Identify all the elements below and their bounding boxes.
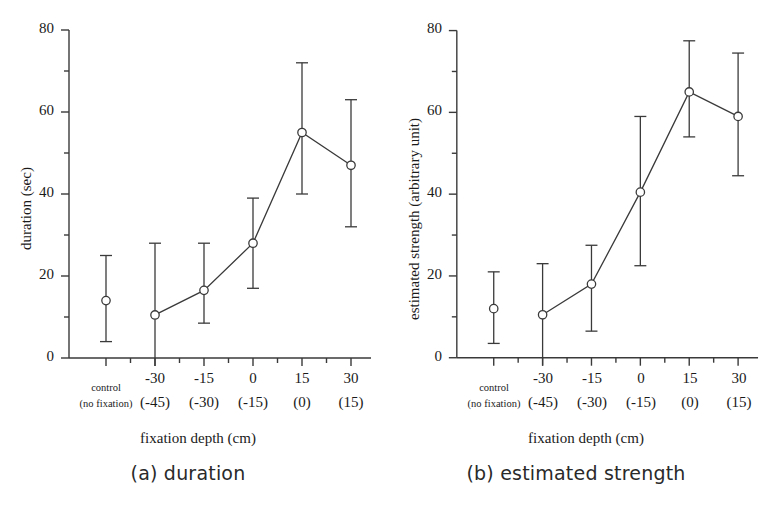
data-point-a-30: [347, 161, 355, 169]
figure-root: 80 60 40 20 0 duration (sec) control (no…: [0, 0, 777, 507]
data-point-b-0: [636, 188, 644, 196]
x-axis-title-b: fixation depth (cm): [416, 430, 756, 447]
xtick-label-a-m15: -15: [184, 370, 224, 387]
xtick-sublabel-a-m15: (-15): [228, 394, 278, 411]
xtick-sublabel-a-0: (0): [277, 394, 327, 411]
xtick-label-b-m15: -15: [572, 370, 612, 387]
xtick-label-b-30: 30: [719, 370, 759, 387]
data-point-a-m15: [200, 286, 208, 294]
data-point-b-m15: [587, 280, 595, 288]
xtick-sublabel-b-0: (0): [665, 394, 715, 411]
data-point-a-control: [102, 296, 110, 304]
panel-a-duration: 80 60 40 20 0 duration (sec) control (no…: [0, 0, 388, 507]
errorbar-a-m30: [149, 243, 161, 366]
data-markers-b: [490, 88, 743, 319]
errorbar-a-m15: [198, 243, 210, 323]
xtick-sublabel-b-m45: (-45): [518, 394, 568, 411]
panel-b-estimated-strength: 80 60 40 20 0 estimated strength (arbitr…: [388, 0, 776, 507]
ytick-label-b-60: 60: [408, 102, 442, 119]
data-point-b-30: [734, 112, 742, 120]
xtick-label-a-control-line1: control: [66, 382, 146, 393]
xtick-sublabel-a-m30: (-30): [179, 394, 229, 411]
xtick-sublabel-a-15: (15): [326, 394, 376, 411]
xtick-label-a-15: 15: [282, 370, 322, 387]
data-point-b-control: [490, 304, 498, 312]
xtick-label-a-m30: -30: [135, 370, 175, 387]
ytick-label-a-80: 80: [20, 20, 54, 37]
xtick-label-b-control-line1: control: [454, 382, 534, 393]
ytick-label-b-0: 0: [408, 348, 442, 365]
xtick-label-b-m30: -30: [523, 370, 563, 387]
subcaption-b: (b) estimated strength: [396, 462, 756, 484]
x-axis-title-a: fixation depth (cm): [28, 430, 368, 447]
ytick-label-a-60: 60: [20, 102, 54, 119]
data-point-a-m30: [151, 311, 159, 319]
data-point-b-m30: [538, 311, 546, 319]
ytick-label-a-0: 0: [20, 348, 54, 365]
xtick-label-b-15: 15: [670, 370, 710, 387]
xtick-label-b-0: 0: [621, 370, 661, 387]
xtick-sublabel-a-m45: (-45): [130, 394, 180, 411]
y-axis-title-b: estimated strength (arbitrary unit): [406, 118, 423, 320]
xtick-label-a-30: 30: [331, 370, 371, 387]
data-point-a-0: [249, 239, 257, 247]
ytick-label-a-20: 20: [20, 266, 54, 283]
data-point-a-15: [298, 128, 306, 136]
data-point-b-15: [685, 88, 693, 96]
data-markers-a: [102, 128, 355, 319]
xtick-label-a-0: 0: [233, 370, 273, 387]
ytick-label-b-80: 80: [408, 20, 442, 37]
y-axis-title-a: duration (sec): [18, 167, 35, 250]
xtick-sublabel-b-m30: (-30): [567, 394, 617, 411]
xtick-sublabel-b-15: (15): [714, 394, 764, 411]
xtick-sublabel-b-m15: (-15): [616, 394, 666, 411]
subcaption-a: (a) duration: [18, 462, 358, 484]
